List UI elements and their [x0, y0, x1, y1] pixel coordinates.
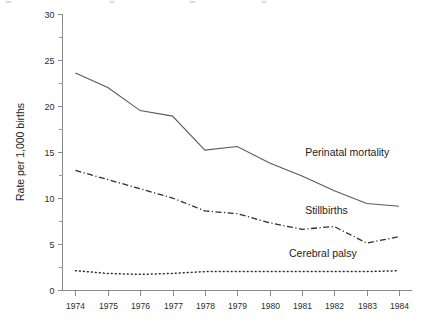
x-tick-label: 1982	[325, 301, 344, 311]
page-artifacts	[6, 1, 266, 3]
x-tick-label: 1974	[66, 301, 85, 311]
y-tick-label: 5	[49, 240, 54, 250]
x-tick-label: 1977	[164, 301, 183, 311]
y-axis-ticks	[58, 15, 63, 291]
y-axis-tick-labels: 051015202530	[44, 10, 54, 296]
y-tick-label: 0	[49, 286, 54, 296]
chart-page: 051015202530 197419751976197719781979198…	[0, 0, 421, 331]
series-label-cerebral-palsy: Cerebral palsy	[289, 247, 357, 259]
y-tick-label: 30	[44, 10, 54, 20]
x-tick-label: 1976	[131, 301, 150, 311]
series-label-perinatal-mortality: Perinatal mortality	[305, 146, 390, 158]
series-line-cerebral-palsy	[75, 271, 399, 275]
x-tick-label: 1975	[99, 301, 118, 311]
series-line-perinatal-mortality	[75, 73, 399, 206]
y-tick-label: 20	[44, 102, 54, 112]
y-tick-label: 10	[44, 194, 54, 204]
chart-series	[75, 73, 399, 274]
series-line-stillbirths	[75, 170, 399, 243]
x-tick-label: 1981	[293, 301, 312, 311]
series-inline-labels: Perinatal mortalityStillbirthsCerebral p…	[289, 146, 390, 259]
y-axis-title: Rate per 1,000 births	[14, 103, 26, 201]
x-tick-label: 1978	[196, 301, 215, 311]
x-tick-label: 1980	[261, 301, 280, 311]
y-tick-label: 25	[44, 56, 54, 66]
x-axis-tick-labels: 1974197519761977197819791980198119821983…	[66, 301, 409, 311]
x-tick-label: 1979	[228, 301, 247, 311]
x-tick-label: 1983	[358, 301, 377, 311]
line-chart: 051015202530 197419751976197719781979198…	[0, 0, 421, 331]
y-tick-label: 15	[44, 148, 54, 158]
x-tick-label: 1984	[390, 301, 409, 311]
series-label-stillbirths: Stillbirths	[305, 204, 348, 216]
